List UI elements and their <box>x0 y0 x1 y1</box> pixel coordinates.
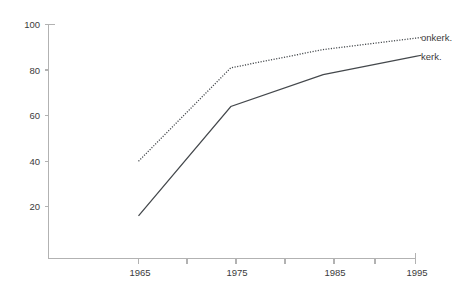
chart-canvas: 100 80 60 40 20 1965 1975 1985 1995 <box>0 0 471 300</box>
series-group <box>139 37 422 215</box>
y-tick-label-20: 20 <box>29 201 40 212</box>
series-line-kerk <box>139 55 422 216</box>
x-tick-label-1975: 1975 <box>226 267 247 278</box>
y-tick-label-40: 40 <box>29 156 40 167</box>
y-tick-label-60: 60 <box>29 110 40 121</box>
axis-group <box>49 25 416 259</box>
x-tick-label-1995: 1995 <box>406 267 427 278</box>
legend-label-kerk: kerk. <box>421 51 442 62</box>
legend-group: onkerk. kerk. <box>421 32 452 62</box>
series-line-onkerk <box>139 37 422 161</box>
y-tick-label-80: 80 <box>29 65 40 76</box>
x-tick-group: 1965 1975 1985 1995 <box>129 259 427 279</box>
line-chart: 100 80 60 40 20 1965 1975 1985 1995 <box>0 0 471 300</box>
x-tick-label-1965: 1965 <box>129 267 150 278</box>
legend-label-onkerk: onkerk. <box>421 32 452 43</box>
y-tick-label-100: 100 <box>24 19 40 30</box>
y-tick-group: 100 80 60 40 20 <box>24 19 48 212</box>
x-tick-label-1985: 1985 <box>324 267 345 278</box>
